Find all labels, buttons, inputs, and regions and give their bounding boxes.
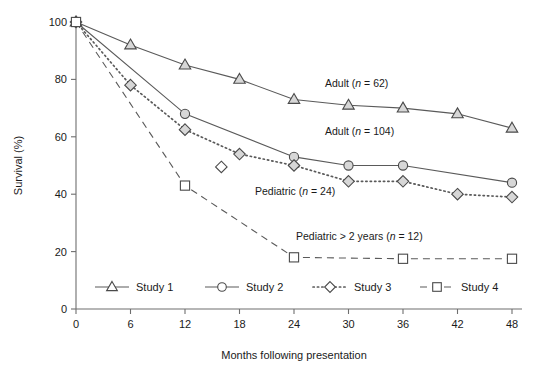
y-tick-label: 0 bbox=[61, 303, 67, 315]
legend-marker-3 bbox=[325, 282, 336, 293]
marker-study-3 bbox=[506, 191, 518, 203]
x-tick-label: 12 bbox=[179, 318, 191, 330]
marker-study-1 bbox=[343, 99, 355, 109]
marker-study-3 bbox=[179, 124, 191, 136]
series-line-study-4 bbox=[76, 22, 512, 259]
survival-chart: 0612182430364248020406080100Months follo… bbox=[0, 0, 537, 373]
annotation-adult-62: Adult (n = 62) bbox=[325, 77, 388, 89]
marker-study-1 bbox=[452, 108, 464, 118]
marker-study-1 bbox=[397, 102, 409, 112]
x-tick-label: 6 bbox=[127, 318, 133, 330]
legend-marker-2 bbox=[218, 283, 227, 292]
y-tick-label: 20 bbox=[55, 246, 67, 258]
marker-study-3-extra-point bbox=[216, 161, 228, 173]
x-tick-label: 48 bbox=[506, 318, 518, 330]
x-tick-label: 0 bbox=[73, 318, 79, 330]
y-tick-label: 60 bbox=[55, 131, 67, 143]
annotation-pediatric-2yrs-12: Pediatric > 2 years (n = 12) bbox=[296, 230, 423, 242]
x-axis-title: Months following presentation bbox=[221, 349, 367, 361]
legend-label-2[interactable]: Study 2 bbox=[246, 281, 283, 293]
marker-study-3 bbox=[288, 160, 300, 172]
y-tick-label: 100 bbox=[49, 16, 67, 28]
marker-study-3 bbox=[452, 188, 464, 200]
y-axis-title: Survival (%) bbox=[12, 136, 24, 195]
x-tick-label: 24 bbox=[288, 318, 300, 330]
annotation-pediatric-24: Pediatric (n = 24) bbox=[255, 185, 335, 197]
legend-marker-4 bbox=[433, 283, 442, 292]
marker-study-4 bbox=[507, 254, 516, 263]
x-tick-label: 42 bbox=[451, 318, 463, 330]
legend-label-1[interactable]: Study 1 bbox=[136, 281, 173, 293]
y-tick-label: 80 bbox=[55, 73, 67, 85]
legend-label-3[interactable]: Study 3 bbox=[354, 281, 391, 293]
marker-study-1 bbox=[125, 39, 137, 49]
legend-marker-1 bbox=[107, 281, 118, 290]
marker-study-3 bbox=[397, 176, 409, 188]
marker-study-2 bbox=[398, 161, 407, 170]
annotation-adult-104: Adult (n = 104) bbox=[325, 125, 394, 137]
series-line-study-1 bbox=[76, 22, 512, 128]
marker-study-2 bbox=[507, 178, 516, 187]
x-tick-label: 18 bbox=[233, 318, 245, 330]
marker-study-2 bbox=[180, 109, 189, 118]
chart-canvas: 0612182430364248020406080100Months follo… bbox=[0, 0, 537, 373]
marker-study-3 bbox=[234, 148, 246, 160]
marker-study-4 bbox=[180, 181, 189, 190]
x-tick-label: 30 bbox=[342, 318, 354, 330]
y-tick-label: 40 bbox=[55, 188, 67, 200]
marker-study-3 bbox=[343, 176, 355, 188]
legend-label-4[interactable]: Study 4 bbox=[461, 281, 498, 293]
marker-study-2 bbox=[344, 161, 353, 170]
marker-study-4 bbox=[289, 253, 298, 262]
marker-study-4 bbox=[398, 254, 407, 263]
x-tick-label: 36 bbox=[397, 318, 409, 330]
marker-study-4 bbox=[71, 17, 80, 26]
